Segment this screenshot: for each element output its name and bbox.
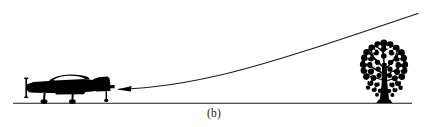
aircraft-wheel-front [41,99,48,104]
aircraft-horizontal-stabilizer [98,85,115,89]
aircraft-wheel-rear [69,99,76,104]
aircraft-tail-fin [93,77,110,92]
aircraft-wing [54,90,86,94]
figure-caption: (b) [0,106,428,120]
aircraft-propeller-tip-upper [24,78,28,79]
aircraft-propeller-tip-lower [24,97,28,98]
aircraft-tailwheel [104,99,108,102]
aircraft-tailwheel-strut [106,91,107,99]
aircraft-propeller-icon [25,78,27,97]
figure-panel-b: (b) [0,0,428,127]
